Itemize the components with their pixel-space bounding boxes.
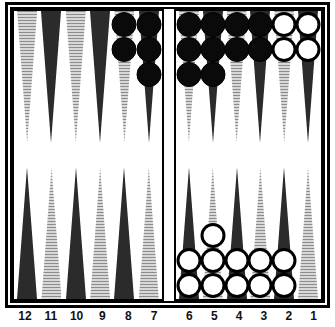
point-triangle-dark <box>17 167 37 299</box>
point-12[interactable] <box>16 11 39 155</box>
point-17[interactable] <box>113 155 136 299</box>
point-triangle-dark <box>66 167 86 299</box>
checker-stack[interactable] <box>224 248 249 298</box>
point-triangle-light <box>90 167 110 299</box>
point-22[interactable] <box>249 155 272 299</box>
point-23[interactable] <box>273 155 296 299</box>
point-21[interactable] <box>225 155 248 299</box>
point-11[interactable] <box>40 11 63 155</box>
checker-black[interactable] <box>200 37 225 62</box>
point-1[interactable] <box>297 11 320 155</box>
point-13[interactable] <box>16 155 39 299</box>
point-triangle-dark <box>114 167 134 299</box>
checker-black[interactable] <box>248 12 273 37</box>
checker-stack[interactable] <box>176 12 201 87</box>
point-label-9: 9 <box>91 310 114 323</box>
point-labels-left: 121110987 <box>12 310 167 327</box>
checker-black[interactable] <box>176 62 201 87</box>
checker-black[interactable] <box>200 12 225 37</box>
checker-white[interactable] <box>200 223 225 248</box>
backgammon-board: 121110987 654321 <box>0 0 335 327</box>
point-label-5: 5 <box>203 310 226 323</box>
point-labels-right: 654321 <box>177 310 326 327</box>
checker-stack[interactable] <box>272 248 297 298</box>
point-24[interactable] <box>297 155 320 299</box>
point-label-2: 2 <box>277 310 300 323</box>
checker-stack[interactable] <box>136 12 161 87</box>
checker-white[interactable] <box>248 273 273 298</box>
checker-black[interactable] <box>248 37 273 62</box>
point-20[interactable] <box>201 155 224 299</box>
checker-white[interactable] <box>272 12 297 37</box>
point-4[interactable] <box>225 11 248 155</box>
point-3[interactable] <box>249 11 272 155</box>
checker-stack[interactable] <box>272 12 297 62</box>
board-left-half <box>12 9 164 301</box>
checker-black[interactable] <box>224 12 249 37</box>
point-triangle-light <box>298 167 318 299</box>
checker-stack[interactable] <box>248 248 273 298</box>
checker-white[interactable] <box>224 273 249 298</box>
bottom-right-quadrant <box>176 155 321 299</box>
point-10[interactable] <box>64 11 87 155</box>
point-triangle-light <box>139 167 159 299</box>
point-triangle-light <box>41 167 61 299</box>
checker-black[interactable] <box>112 37 137 62</box>
point-label-3: 3 <box>252 310 275 323</box>
checker-stack[interactable] <box>200 223 225 298</box>
checker-black[interactable] <box>136 12 161 37</box>
point-label-4: 4 <box>228 310 251 323</box>
checker-stack[interactable] <box>200 12 225 87</box>
top-right-quadrant <box>176 11 321 155</box>
point-9[interactable] <box>89 11 112 155</box>
point-16[interactable] <box>89 155 112 299</box>
point-triangle-dark <box>90 11 110 143</box>
point-15[interactable] <box>64 155 87 299</box>
checker-black[interactable] <box>224 37 249 62</box>
checker-black[interactable] <box>176 37 201 62</box>
checker-white[interactable] <box>272 248 297 273</box>
checker-stack[interactable] <box>176 248 201 298</box>
point-label-8: 8 <box>117 310 140 323</box>
checker-white[interactable] <box>296 12 321 37</box>
checker-white[interactable] <box>272 37 297 62</box>
point-number-labels: 121110987 654321 <box>5 310 330 327</box>
checker-stack[interactable] <box>248 12 273 62</box>
point-18[interactable] <box>137 155 160 299</box>
point-label-10: 10 <box>65 310 88 323</box>
point-triangle-dark <box>41 11 61 143</box>
top-left-quadrant <box>14 11 162 155</box>
point-label-11: 11 <box>39 310 62 323</box>
checker-white[interactable] <box>272 273 297 298</box>
checker-stack[interactable] <box>224 12 249 62</box>
point-6[interactable] <box>177 11 200 155</box>
board-bar[interactable] <box>164 9 174 301</box>
point-8[interactable] <box>113 11 136 155</box>
board-right-half <box>174 9 323 301</box>
checker-white[interactable] <box>296 37 321 62</box>
checker-white[interactable] <box>248 248 273 273</box>
point-14[interactable] <box>40 155 63 299</box>
point-7[interactable] <box>137 11 160 155</box>
point-label-6: 6 <box>178 310 201 323</box>
checker-white[interactable] <box>224 248 249 273</box>
checker-stack[interactable] <box>112 12 137 62</box>
checker-stack[interactable] <box>296 12 321 62</box>
checker-black[interactable] <box>176 12 201 37</box>
checker-white[interactable] <box>200 273 225 298</box>
point-triangle-light <box>17 11 37 143</box>
checker-black[interactable] <box>136 37 161 62</box>
checker-white[interactable] <box>176 248 201 273</box>
checker-black[interactable] <box>200 62 225 87</box>
point-label-7: 7 <box>143 310 166 323</box>
point-5[interactable] <box>201 11 224 155</box>
checker-white[interactable] <box>176 273 201 298</box>
bottom-left-quadrant <box>14 155 162 299</box>
point-19[interactable] <box>177 155 200 299</box>
point-label-1: 1 <box>302 310 325 323</box>
checker-white[interactable] <box>200 248 225 273</box>
checker-black[interactable] <box>136 62 161 87</box>
point-triangle-light <box>66 11 86 143</box>
checker-black[interactable] <box>112 12 137 37</box>
point-2[interactable] <box>273 11 296 155</box>
